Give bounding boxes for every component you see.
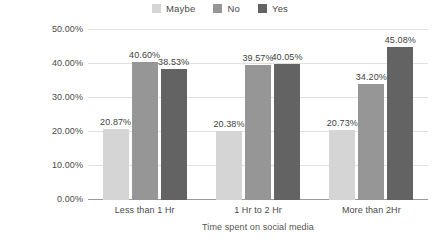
- bar-groups: 20.87%40.60%38.53%Less than 1 Hr20.38%39…: [88, 30, 428, 200]
- y-axis-tick-label: 50.00%: [52, 24, 83, 34]
- bar-group-bars: 20.38%39.57%40.05%: [201, 30, 314, 200]
- legend-swatch-maybe: [152, 4, 161, 13]
- bar-no[interactable]: [132, 62, 158, 200]
- bar-group-bars: 20.73%34.20%45.08%: [315, 30, 428, 200]
- plot-area: 0.00%10.00%20.00%30.00%40.00%50.00% 20.8…: [88, 30, 428, 200]
- bar-group-bars: 20.87%40.60%38.53%: [88, 30, 201, 200]
- bar-value-label: 38.53%: [158, 57, 189, 67]
- y-axis-tick-label: 0.00%: [57, 194, 83, 204]
- bar-slot: 20.38%: [216, 30, 242, 200]
- y-axis-tick-label: 30.00%: [52, 92, 83, 102]
- legend-label-no: No: [227, 3, 240, 14]
- bar-slot: 38.53%: [161, 30, 187, 200]
- bar-value-label: 40.60%: [129, 50, 160, 60]
- x-axis-tick-label: 1 Hr to 2 Hr: [201, 205, 314, 215]
- y-axis-tick-label: 40.00%: [52, 58, 83, 68]
- bar-group: 20.73%34.20%45.08%More than 2Hr: [315, 30, 428, 200]
- bar-group: 20.87%40.60%38.53%Less than 1 Hr: [88, 30, 201, 200]
- bar-no[interactable]: [358, 84, 384, 200]
- bar-slot: 20.87%: [103, 30, 129, 200]
- legend-label-maybe: Maybe: [166, 3, 196, 14]
- y-axis-tick-label: 10.00%: [52, 160, 83, 170]
- bar-maybe[interactable]: [329, 130, 355, 200]
- legend-label-yes: Yes: [272, 3, 288, 14]
- x-axis-tick-label: More than 2Hr: [315, 205, 428, 215]
- bar-slot: 45.08%: [387, 30, 413, 200]
- chart-legend: Maybe No Yes: [0, 3, 440, 14]
- legend-item-maybe[interactable]: Maybe: [152, 3, 196, 14]
- bar-value-label: 20.87%: [100, 117, 131, 127]
- bar-slot: 34.20%: [358, 30, 384, 200]
- bar-maybe[interactable]: [216, 131, 242, 200]
- x-axis-title: Time spent on social media: [88, 222, 428, 232]
- bar-slot: 40.05%: [274, 30, 300, 200]
- legend-swatch-yes: [258, 4, 267, 13]
- bar-maybe[interactable]: [103, 129, 129, 200]
- bar-slot: 20.73%: [329, 30, 355, 200]
- bar-value-label: 34.20%: [356, 72, 387, 82]
- bar-yes[interactable]: [161, 69, 187, 200]
- bar-value-label: 20.73%: [327, 118, 358, 128]
- y-axis-tick-label: 20.00%: [52, 126, 83, 136]
- bar-yes[interactable]: [274, 64, 300, 200]
- bar-value-label: 40.05%: [271, 52, 302, 62]
- bar-no[interactable]: [245, 65, 271, 200]
- bar-value-label: 20.38%: [213, 119, 244, 129]
- legend-item-no[interactable]: No: [213, 3, 240, 14]
- bar-value-label: 39.57%: [242, 53, 273, 63]
- legend-item-yes[interactable]: Yes: [258, 3, 288, 14]
- bar-slot: 40.60%: [132, 30, 158, 200]
- bar-group: 20.38%39.57%40.05%1 Hr to 2 Hr: [201, 30, 314, 200]
- x-axis-tick-label: Less than 1 Hr: [88, 205, 201, 215]
- legend-swatch-no: [213, 4, 222, 13]
- bar-yes[interactable]: [387, 47, 413, 200]
- bar-value-label: 45.08%: [385, 35, 416, 45]
- bar-chart: Maybe No Yes Social media influence 0.00…: [0, 0, 440, 240]
- bar-slot: 39.57%: [245, 30, 271, 200]
